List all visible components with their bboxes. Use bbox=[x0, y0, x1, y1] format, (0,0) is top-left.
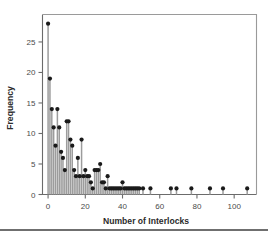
chart-plot-area: 020406080100 0510152025 Number of Interl… bbox=[0, 0, 268, 228]
y-tick-label: 10 bbox=[27, 129, 36, 138]
data-point bbox=[137, 186, 141, 190]
y-tick-label: 0 bbox=[31, 191, 36, 200]
data-point bbox=[89, 180, 93, 184]
data-point bbox=[189, 186, 193, 190]
data-point bbox=[120, 180, 124, 184]
x-tick-label: 0 bbox=[46, 202, 51, 211]
data-point bbox=[169, 186, 173, 190]
data-point bbox=[78, 174, 82, 178]
figure-container: 020406080100 0510152025 Number of Interl… bbox=[0, 0, 268, 235]
data-point bbox=[96, 168, 100, 172]
plot-frame bbox=[43, 15, 257, 195]
data-point bbox=[61, 156, 65, 160]
x-axis-label: Number of Interlocks bbox=[103, 216, 189, 226]
y-axis-label: Frequency bbox=[5, 86, 15, 130]
data-point bbox=[208, 186, 212, 190]
data-point bbox=[46, 22, 50, 26]
data-point bbox=[76, 156, 80, 160]
data-point bbox=[106, 174, 110, 178]
data-point bbox=[68, 137, 72, 141]
data-point bbox=[50, 107, 54, 111]
data-point bbox=[63, 168, 67, 172]
x-tick-label: 20 bbox=[81, 202, 90, 211]
data-point bbox=[83, 168, 87, 172]
data-point-markers bbox=[46, 22, 249, 191]
y-tick-label: 5 bbox=[31, 160, 36, 169]
figure-bottom-rule bbox=[0, 229, 268, 231]
data-point bbox=[57, 125, 61, 129]
data-point bbox=[74, 174, 78, 178]
stem-series bbox=[48, 24, 247, 195]
y-axis-ticks: 0510152025 bbox=[27, 38, 43, 200]
data-point bbox=[102, 180, 106, 184]
x-tick-label: 100 bbox=[227, 202, 241, 211]
data-point bbox=[221, 186, 225, 190]
data-point bbox=[119, 186, 123, 190]
data-point bbox=[174, 186, 178, 190]
y-tick-label: 25 bbox=[27, 38, 36, 47]
data-point bbox=[91, 186, 95, 190]
data-point bbox=[48, 76, 52, 80]
data-point bbox=[87, 174, 91, 178]
x-axis-ticks: 020406080100 bbox=[46, 195, 242, 211]
data-point bbox=[53, 144, 57, 148]
data-point bbox=[55, 107, 59, 111]
data-point bbox=[104, 186, 108, 190]
x-tick-label: 60 bbox=[155, 202, 164, 211]
data-point bbox=[66, 119, 70, 123]
data-point bbox=[141, 186, 145, 190]
data-point bbox=[70, 144, 74, 148]
y-tick-label: 20 bbox=[27, 68, 36, 77]
data-point bbox=[59, 150, 63, 154]
x-tick-label: 80 bbox=[192, 202, 201, 211]
data-point bbox=[72, 168, 76, 172]
data-point bbox=[98, 162, 102, 166]
data-point bbox=[81, 174, 85, 178]
stem-plot-svg: 020406080100 0510152025 Number of Interl… bbox=[0, 0, 268, 228]
data-point bbox=[52, 125, 56, 129]
data-point bbox=[245, 186, 249, 190]
x-tick-label: 40 bbox=[118, 202, 127, 211]
y-tick-label: 15 bbox=[27, 99, 36, 108]
data-point bbox=[79, 137, 83, 141]
data-point bbox=[148, 186, 152, 190]
